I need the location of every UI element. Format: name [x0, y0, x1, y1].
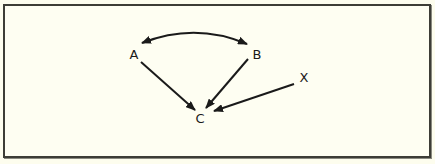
diagram-edges: [0, 0, 435, 164]
node-a-label: A: [130, 48, 139, 61]
edge-a-b: [142, 33, 247, 44]
node-x-label: X: [300, 71, 309, 84]
edge-x-c: [214, 84, 294, 111]
edge-a-c: [141, 62, 195, 110]
node-b-label: B: [253, 48, 262, 61]
node-c-label: C: [195, 112, 204, 125]
diagram-canvas: A B C X: [0, 0, 435, 164]
